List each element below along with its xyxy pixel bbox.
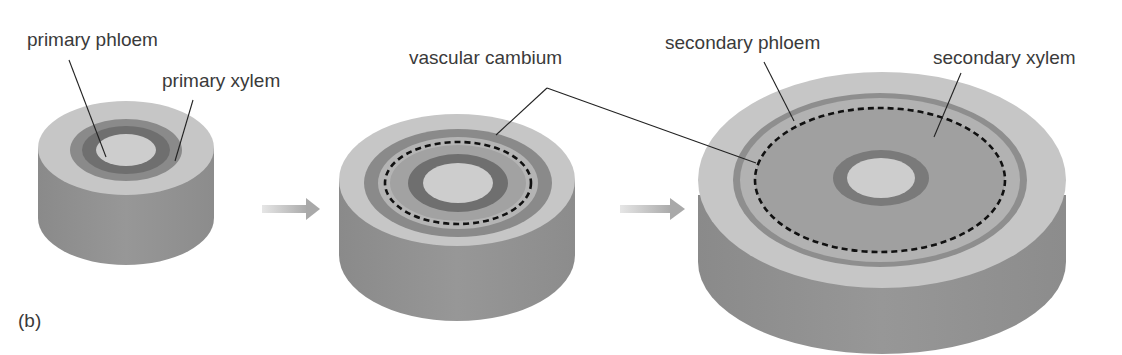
- disc-secondary: [698, 72, 1066, 354]
- arrow-icon: [620, 198, 685, 220]
- arrow-icon: [262, 198, 320, 220]
- label-secondary-phloem: secondary phloem: [665, 33, 820, 52]
- label-primary-phloem: primary phloem: [27, 30, 158, 49]
- stem-growth-diagram: primary phloem primary xylem vascular ca…: [0, 0, 1122, 355]
- label-vascular-cambium: vascular cambium: [409, 48, 562, 67]
- label-secondary-xylem: secondary xylem: [933, 48, 1076, 67]
- pith: [847, 158, 915, 198]
- pith: [423, 163, 493, 203]
- pith: [96, 134, 156, 166]
- panel-label: (b): [18, 311, 41, 330]
- disc-transition: [339, 114, 575, 321]
- label-primary-xylem: primary xylem: [162, 71, 280, 90]
- disc-primary: [38, 101, 214, 265]
